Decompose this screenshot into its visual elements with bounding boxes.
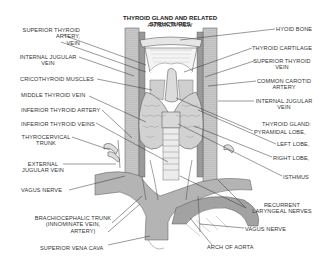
label-arch-of-aorta: ARCH OF AORTA [207,244,253,250]
label-isthmus: ISTHMUS [283,174,309,180]
pyramidal-lobe-shape [165,68,178,102]
label-hyoid-bone: HYOID BONE [276,26,312,32]
label-vagus-nerve-right: VAGUS NERVE [245,226,286,232]
label-vagus-nerve-left: VAGUS NERVE [21,187,62,193]
label-brachiocephalic-trunk: BRACHIOCEPHALIC TRUNK (INNOMINATE VEIN, … [30,215,116,234]
label-superior-thyroid-artery-vein: SUPERIOR THYROID ARTERY, VEIN [8,27,80,46]
label-right-lobe: RIGHT LOBE, [273,155,309,161]
label-thyroid-cartilage: THYROID CARTILAGE [252,45,312,51]
label-common-carotid-artery: COMMON CAROTID ARTERY [256,78,312,91]
label-internal-jugular-vein-left: INTERNAL JUGULAR VEIN [18,54,78,67]
label-superior-vena-cava: SUPERIOR VENA CAVA [40,245,103,251]
label-recurrent-laryngeal-nerves: RECURRENT LARYNGEAL NERVES [250,202,314,215]
label-inferior-thyroid-veins: INFERIOR THYROID VEINS [21,121,95,127]
diagram-canvas: THYROID GLAND AND RELATED STRUCTURES ANT… [0,0,329,268]
label-thyroid-gland: THYROID GLAND: [262,121,311,127]
label-inferior-thyroid-artery: INFERIOR THYROID ARTERY [21,107,100,113]
trachea [163,128,179,180]
label-middle-thyroid-vein: MIDDLE THYROID VEIN [21,92,85,98]
label-external-jugular-vein: EXTERNAL JUGULAR VEIN [20,161,66,174]
label-thyrocervical-trunk: THYROCERVICAL TRUNK [18,134,74,147]
label-left-lobe: LEFT LOBE, [277,141,310,147]
isthmus-shape [162,112,180,128]
label-pyramidal-lobe: PYRAMIDAL LOBE, [254,129,306,135]
label-internal-jugular-vein-right: INTERNAL JUGULAR VEIN [254,98,314,111]
label-cricothyroid-muscles: CRICOTHYROID MUSCLES [20,76,94,82]
label-superior-thyroid-vein: SUPERIOR THYROID VEIN [252,58,312,71]
great-vessels [95,172,259,249]
